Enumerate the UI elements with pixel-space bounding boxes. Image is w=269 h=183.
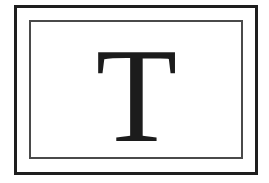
letter-glyph: T [96, 27, 177, 163]
letter-container: T [29, 20, 243, 159]
